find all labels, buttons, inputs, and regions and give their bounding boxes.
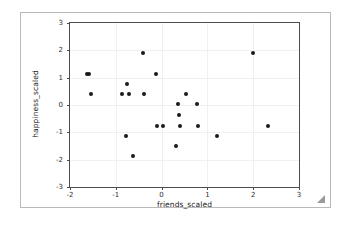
scatter-point xyxy=(251,51,255,55)
plot-output-frame: -2-10123-3-2-10123 friends_scaled happin… xyxy=(20,12,331,208)
y-axis-tick xyxy=(67,105,70,106)
gridline-horizontal xyxy=(70,105,299,106)
x-axis-tick-label: 3 xyxy=(297,191,301,199)
y-axis-tick-label: -2 xyxy=(56,156,63,164)
scatter-point xyxy=(215,134,219,138)
x-axis-tick xyxy=(299,187,300,190)
resize-grip-icon[interactable] xyxy=(317,195,325,203)
scatter-point xyxy=(141,51,145,55)
scatter-point xyxy=(127,92,131,96)
x-axis-tick xyxy=(70,187,71,190)
y-axis-tick xyxy=(67,78,70,79)
scatter-point xyxy=(196,124,200,128)
scatter-point xyxy=(89,92,93,96)
scatter-point xyxy=(184,92,188,96)
x-axis-tick-label: -1 xyxy=(112,191,119,199)
scatter-point xyxy=(125,82,129,86)
scatter-point xyxy=(176,102,180,106)
y-axis-tick-label: -3 xyxy=(56,183,63,191)
x-axis-tick xyxy=(162,187,163,190)
y-axis-tick-label: 2 xyxy=(59,46,63,54)
gridline-horizontal xyxy=(70,160,299,161)
scatter-point xyxy=(178,124,182,128)
y-axis-tick xyxy=(67,50,70,51)
scatter-point xyxy=(131,154,135,158)
x-axis-tick-label: 2 xyxy=(251,191,255,199)
y-axis-tick xyxy=(67,187,70,188)
scatter-point xyxy=(177,113,181,117)
scatter-point xyxy=(120,92,124,96)
y-axis-tick-label: 0 xyxy=(59,101,63,109)
y-axis-label: happiness_scaled xyxy=(31,70,40,138)
scatter-point xyxy=(161,124,165,128)
scatter-plot-axes: -2-10123-3-2-10123 xyxy=(69,22,300,188)
scatter-point xyxy=(155,124,159,128)
matplotlib-figure: -2-10123-3-2-10123 friends_scaled happin… xyxy=(21,13,330,207)
x-axis-tick xyxy=(116,187,117,190)
x-axis-tick xyxy=(253,187,254,190)
scatter-point xyxy=(124,134,128,138)
gridline-horizontal xyxy=(70,78,299,79)
y-axis-tick xyxy=(67,160,70,161)
scatter-point xyxy=(174,144,178,148)
y-axis-tick xyxy=(67,23,70,24)
x-axis-tick-label: 1 xyxy=(205,191,209,199)
y-axis-tick xyxy=(67,132,70,133)
y-axis-tick-label: 1 xyxy=(59,74,63,82)
scatter-point xyxy=(142,92,146,96)
x-axis-tick xyxy=(207,187,208,190)
gridline-horizontal xyxy=(70,132,299,133)
scatter-point xyxy=(87,72,91,76)
x-axis-tick-label: -2 xyxy=(67,191,74,199)
x-axis-label: friends_scaled xyxy=(69,200,300,209)
x-axis-tick-label: 0 xyxy=(159,191,163,199)
scatter-point xyxy=(154,72,158,76)
y-axis-tick-label: -1 xyxy=(56,128,63,136)
y-axis-tick-label: 3 xyxy=(59,19,63,27)
scatter-point xyxy=(266,124,270,128)
gridline-horizontal xyxy=(70,50,299,51)
